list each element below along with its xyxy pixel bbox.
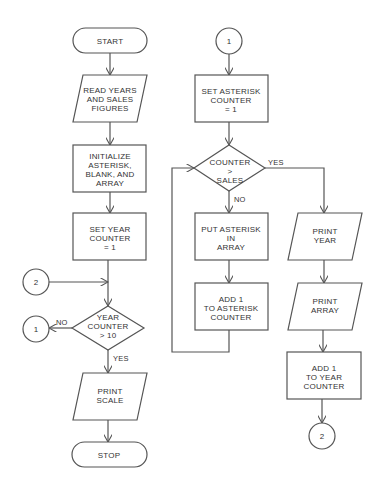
start-terminal: START [73, 28, 147, 53]
init-label-line2: ASTERISK, [88, 161, 132, 170]
print-year-line2: YEAR [314, 236, 337, 245]
add-asterisk-counter-box: ADD 1 TO ASTERISK COUNTER [195, 283, 268, 330]
read-label-line1: READ YEARS [83, 86, 136, 95]
add-year-line1: ADD 1 [312, 364, 337, 373]
print-scale-line1: PRINT [98, 387, 123, 396]
init-label-line4: ARRAY [96, 179, 124, 188]
add-year-counter-box: ADD 1 TO YEAR COUNTER [287, 352, 361, 399]
add-year-line2: TO YEAR [306, 373, 342, 382]
put-asterisk-line3: ARRAY [217, 243, 245, 252]
stop-terminal: STOP [72, 442, 147, 467]
set-asterisk-counter-box: SET ASTERISK COUNTER = 1 [195, 75, 268, 122]
print-array-parallelogram: PRINT ARRAY [288, 283, 362, 330]
connector-2-out-label: 2 [320, 432, 325, 441]
arrow-counter-yes [265, 168, 324, 213]
connector-2-label: 2 [34, 278, 39, 287]
put-asterisk-box: PUT ASTERISK IN ARRAY [195, 213, 268, 260]
print-scale-line2: SCALE [96, 396, 123, 405]
initialize-process-box: INITIALIZE ASTERISK, BLANK, AND ARRAY [73, 145, 146, 192]
connector-1-in-label: 1 [227, 37, 232, 46]
add-asterisk-line2: TO ASTERISK [204, 304, 259, 313]
counter-yes-label: YES [268, 158, 284, 167]
connector-2-outgoing: 2 [309, 423, 335, 449]
connector-1-out-label: 1 [34, 325, 39, 334]
init-label-line1: INITIALIZE [89, 152, 131, 161]
print-year-parallelogram: PRINT YEAR [288, 213, 362, 260]
setyear-label-line1: SET YEAR [90, 225, 131, 234]
setyear-label-line3: = 1 [104, 243, 116, 252]
year-yes-label: YES [113, 354, 129, 363]
counter-decision-line1: COUNTER [210, 158, 251, 167]
put-asterisk-line2: IN [227, 234, 235, 243]
print-array-line1: PRINT [313, 297, 338, 306]
setasterisk-line2: COUNTER [211, 96, 252, 105]
connector-2-incoming: 2 [23, 269, 49, 295]
read-input-parallelogram: READ YEARS AND SALES FIGURES [73, 75, 147, 122]
init-label-line3: BLANK, AND [85, 170, 134, 179]
counter-sales-decision: COUNTER > SALES [194, 145, 265, 191]
set-year-counter-box: SET YEAR COUNTER = 1 [73, 213, 146, 260]
connector-1-outgoing: 1 [23, 316, 49, 342]
year-decision-line3: > 10 [100, 331, 117, 340]
counter-no-label: NO [234, 195, 246, 204]
print-year-line1: PRINT [313, 227, 338, 236]
read-label-line3: FIGURES [92, 104, 129, 113]
setyear-label-line2: COUNTER [90, 234, 131, 243]
stop-label: STOP [98, 451, 120, 460]
print-scale-parallelogram: PRINT SCALE [73, 373, 147, 420]
counter-decision-line3: SALES [217, 176, 244, 185]
add-asterisk-line1: ADD 1 [219, 295, 244, 304]
setasterisk-line1: SET ASTERISK [201, 87, 261, 96]
year-counter-decision: YEAR COUNTER > 10 [72, 306, 144, 350]
add-asterisk-line3: COUNTER [211, 313, 252, 322]
print-array-line2: ARRAY [311, 306, 339, 315]
counter-decision-line2: > [228, 167, 233, 176]
put-asterisk-line1: PUT ASTERISK [201, 225, 261, 234]
setasterisk-line3: = 1 [225, 105, 237, 114]
add-year-line3: COUNTER [304, 382, 345, 391]
year-no-label: NO [56, 318, 68, 327]
year-decision-line2: COUNTER [88, 322, 129, 331]
year-decision-line1: YEAR [97, 313, 120, 322]
connector-1-incoming: 1 [216, 28, 242, 54]
read-label-line2: AND SALES [87, 95, 134, 104]
flowchart: START READ YEARS AND SALES FIGURES INITI… [0, 0, 383, 488]
start-label: START [97, 37, 123, 46]
